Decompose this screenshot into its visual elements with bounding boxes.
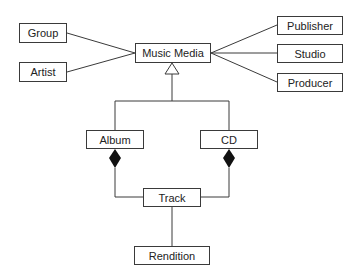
cd-track-composition-line — [201, 168, 229, 197]
class-music-media: Music Media — [135, 43, 211, 63]
class-cd: CD — [200, 130, 258, 149]
class-producer: Producer — [277, 73, 343, 92]
class-artist: Artist — [19, 62, 67, 82]
class-group: Group — [19, 23, 67, 43]
publisher-association-line — [211, 25, 277, 53]
class-album: Album — [86, 130, 144, 149]
class-studio: Studio — [277, 44, 343, 63]
class-rendition: Rendition — [134, 246, 210, 265]
album-composition-diamond-icon — [109, 149, 121, 168]
artist-association-line — [67, 53, 135, 72]
class-track: Track — [143, 188, 201, 207]
album-track-composition-line — [115, 168, 143, 197]
group-association-line — [67, 33, 135, 53]
generalization-triangle-icon — [165, 63, 179, 74]
cd-composition-diamond-icon — [223, 149, 235, 168]
producer-association-line — [211, 53, 277, 82]
class-publisher: Publisher — [277, 16, 343, 35]
